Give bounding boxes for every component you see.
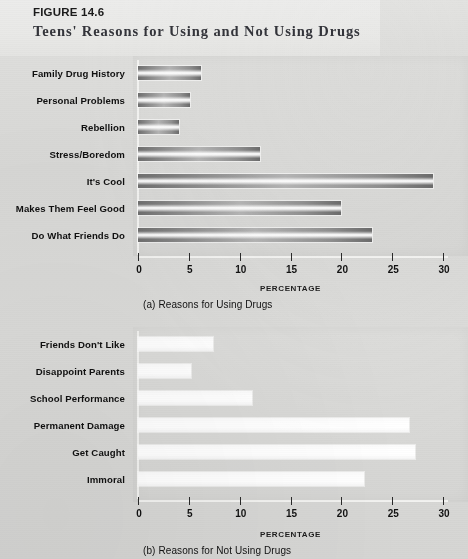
bar [138, 391, 252, 405]
figure-title: Teens' Reasons for Using and Not Using D… [33, 23, 361, 40]
x-axis-tick-label: 10 [235, 264, 246, 275]
category-label: Makes Them Feel Good [0, 204, 125, 214]
x-axis-tick-label: 15 [286, 264, 297, 275]
bar [138, 120, 179, 134]
chart-b-caption: (b) Reasons for Not Using Drugs [143, 545, 291, 556]
figure-page: FIGURE 14.6 Teens' Reasons for Using and… [0, 0, 468, 559]
category-label: Disappoint Parents [0, 367, 125, 377]
category-label: School Performance [0, 394, 125, 404]
x-axis-tick [443, 253, 444, 261]
category-label: Stress/Boredom [0, 150, 125, 160]
chart-a: Family Drug HistoryPersonal ProblemsRebe… [0, 56, 468, 311]
x-axis-tick [341, 497, 342, 505]
x-axis-tick [189, 497, 190, 505]
x-axis-tick [392, 253, 393, 261]
x-axis-tick [138, 253, 139, 261]
x-axis-tick-label: 30 [439, 264, 450, 275]
chart-b: Friends Don't LikeDisappoint ParentsScho… [0, 327, 468, 559]
figure-number: FIGURE 14.6 [33, 6, 104, 18]
x-axis-tick [138, 497, 139, 505]
x-axis-tick [392, 497, 393, 505]
x-axis-line [138, 500, 448, 502]
x-axis-tick-label: 0 [136, 508, 142, 519]
x-axis-tick [240, 253, 241, 261]
bar [138, 472, 364, 486]
x-axis-tick-label: 5 [187, 264, 193, 275]
x-axis-tick-label: 15 [286, 508, 297, 519]
x-axis-tick [240, 497, 241, 505]
bar [138, 66, 201, 80]
category-label: Personal Problems [0, 96, 125, 106]
chart-a-xlabel: PERCENTAGE [260, 284, 321, 293]
x-axis-tick-label: 25 [388, 264, 399, 275]
category-label: Do What Friends Do [0, 231, 125, 241]
x-axis-tick-label: 20 [337, 508, 348, 519]
chart-a-caption: (a) Reasons for Using Drugs [143, 299, 272, 310]
category-label: Immoral [0, 475, 125, 485]
x-axis-tick [291, 253, 292, 261]
bar [138, 337, 213, 351]
bar [138, 228, 372, 242]
category-label: It's Cool [0, 177, 125, 187]
x-axis-tick [189, 253, 190, 261]
x-axis-tick [341, 253, 342, 261]
x-axis-tick [443, 497, 444, 505]
x-axis-tick [291, 497, 292, 505]
category-label: Permanent Damage [0, 421, 125, 431]
category-label: Friends Don't Like [0, 340, 125, 350]
chart-b-xlabel: PERCENTAGE [260, 530, 321, 539]
x-axis-tick-label: 5 [187, 508, 193, 519]
bar [138, 147, 260, 161]
x-axis-tick-label: 0 [136, 264, 142, 275]
bar [138, 201, 341, 215]
bar [138, 445, 415, 459]
bar [138, 93, 190, 107]
x-axis-tick-label: 30 [439, 508, 450, 519]
category-label: Family Drug History [0, 69, 125, 79]
bar [138, 174, 433, 188]
bar [138, 364, 191, 378]
x-axis-tick-label: 10 [235, 508, 246, 519]
x-axis-line [138, 256, 448, 258]
bar [138, 418, 409, 432]
x-axis-tick-label: 20 [337, 264, 348, 275]
category-label: Rebellion [0, 123, 125, 133]
x-axis-tick-label: 25 [388, 508, 399, 519]
category-label: Get Caught [0, 448, 125, 458]
